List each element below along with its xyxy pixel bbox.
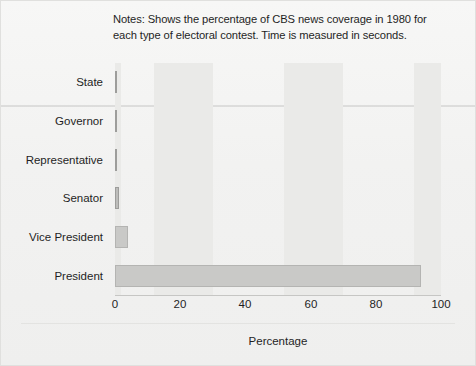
- chart-figure: Notes: Shows the percentage of CBS news …: [0, 0, 476, 366]
- y-tick-president: President: [54, 256, 103, 295]
- x-axis-line: [115, 295, 441, 296]
- y-axis-labels: State Governor Representative Senator Vi…: [1, 63, 109, 295]
- bar-row: [115, 102, 441, 141]
- x-tick-100: 100: [431, 298, 450, 310]
- divider: [21, 323, 455, 324]
- bar-row: [115, 218, 441, 257]
- y-tick-representative: Representative: [26, 140, 103, 179]
- chart-notes: Notes: Shows the percentage of CBS news …: [113, 12, 443, 43]
- bar-row: [115, 140, 441, 179]
- bar-row: [115, 63, 441, 102]
- x-tick-80: 80: [370, 298, 383, 310]
- bar-representative: [115, 149, 117, 171]
- y-tick-senator: Senator: [63, 179, 103, 218]
- bar-vice-president: [115, 226, 128, 248]
- bar-senator: [115, 187, 119, 209]
- plot-area: [115, 63, 441, 295]
- y-tick-state: State: [76, 63, 103, 102]
- x-tick-20: 20: [174, 298, 187, 310]
- x-axis-ticks: 0 20 40 60 80 100: [1, 298, 476, 318]
- bar-governor: [115, 110, 117, 132]
- y-tick-governor: Governor: [55, 102, 103, 141]
- x-axis-title: Percentage: [115, 335, 441, 347]
- x-tick-0: 0: [112, 298, 118, 310]
- bar-row: [115, 179, 441, 218]
- x-tick-40: 40: [239, 298, 252, 310]
- bar-row: [115, 256, 441, 295]
- bar-president: [115, 265, 421, 287]
- y-tick-vice-president: Vice President: [29, 218, 103, 257]
- bar-state: [115, 71, 117, 93]
- x-tick-60: 60: [305, 298, 318, 310]
